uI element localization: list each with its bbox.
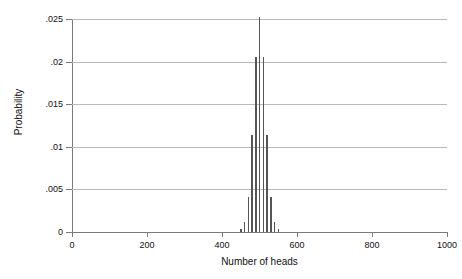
y-tick-mark [66, 189, 72, 190]
y-axis-title: Probability [13, 62, 25, 162]
bar [266, 135, 268, 232]
bar [274, 222, 276, 232]
x-tick-label: 600 [274, 240, 320, 250]
bar [255, 57, 257, 233]
y-tick-label: .005 [45, 185, 63, 194]
bar [270, 197, 272, 232]
x-tick-mark [372, 232, 373, 237]
y-tick-label: .02 [50, 58, 63, 67]
y-tick-mark [66, 19, 72, 20]
y-tick-mark [66, 147, 72, 148]
bar [278, 229, 280, 232]
bar [248, 197, 250, 232]
x-tick-mark [447, 232, 448, 237]
x-tick-label: 200 [124, 240, 170, 250]
x-tick-mark [72, 232, 73, 237]
y-tick-label: .015 [45, 100, 63, 109]
x-tick-label: 0 [49, 240, 95, 250]
y-tick-mark [66, 62, 72, 63]
x-tick-label: 1000 [424, 240, 462, 250]
bar [259, 17, 261, 232]
y-tick-label: 0 [58, 228, 63, 237]
x-axis-title: Number of heads [72, 256, 447, 268]
plot-area [72, 19, 447, 232]
x-tick-label: 400 [199, 240, 245, 250]
bar [240, 229, 242, 232]
y-tick-label: .01 [50, 143, 63, 152]
y-tick-label: .025 [45, 15, 63, 24]
bar [251, 135, 253, 232]
x-tick-mark [147, 232, 148, 237]
x-tick-mark [222, 232, 223, 237]
x-tick-mark [297, 232, 298, 237]
bar [244, 222, 246, 232]
gridline [72, 232, 447, 233]
bar [263, 57, 265, 233]
x-tick-label: 800 [349, 240, 395, 250]
y-tick-mark [66, 104, 72, 105]
